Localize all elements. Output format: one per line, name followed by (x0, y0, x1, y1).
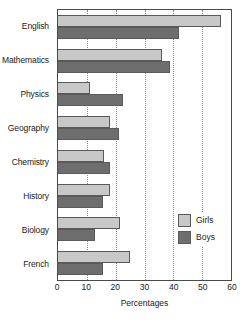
category-label: Mathematics (0, 43, 53, 77)
category-axis: EnglishMathematicsPhysicsGeographyChemis… (0, 9, 53, 281)
x-tick-label: 10 (81, 283, 90, 292)
bar-group (58, 111, 231, 145)
legend-label: Boys (196, 233, 215, 242)
chart-legend: GirlsBoys (176, 212, 217, 246)
legend-item-boys: Boys (178, 231, 215, 244)
bar-boys (58, 162, 110, 174)
bar-group (58, 145, 231, 179)
grouped-bar-chart: EnglishMathematicsPhysicsGeographyChemis… (0, 0, 244, 325)
x-tick-label: 40 (169, 283, 178, 292)
legend-label: Girls (196, 216, 213, 225)
x-axis-title: Percentages (57, 299, 232, 308)
bar-group (58, 44, 231, 78)
legend-swatch-icon (178, 231, 191, 244)
bar-group (58, 78, 231, 112)
bar-girls (58, 49, 162, 61)
category-label: French (0, 247, 53, 281)
category-label: Geography (0, 111, 53, 145)
bar-group (58, 179, 231, 213)
legend-item-girls: Girls (178, 214, 215, 227)
x-axis-tick-labels: 0102030405060 (57, 283, 232, 295)
category-label: Physics (0, 77, 53, 111)
category-label: English (0, 9, 53, 43)
bar-girls (58, 251, 130, 263)
bar-group (58, 10, 231, 44)
x-tick-label: 20 (111, 283, 120, 292)
bar-boys (58, 128, 119, 140)
bar-boys (58, 229, 95, 241)
bar-girls (58, 184, 110, 196)
bar-boys (58, 94, 123, 106)
x-tick-label: 0 (55, 283, 60, 292)
bar-boys (58, 263, 103, 275)
bar-girls (58, 150, 104, 162)
bar-group (58, 246, 231, 280)
category-label: History (0, 179, 53, 213)
bar-boys (58, 196, 103, 208)
bar-girls (58, 217, 120, 229)
x-tick-label: 30 (140, 283, 149, 292)
x-tick-label: 60 (227, 283, 236, 292)
category-label: Chemistry (0, 145, 53, 179)
bar-boys (58, 61, 170, 73)
legend-swatch-icon (178, 214, 191, 227)
bar-girls (58, 82, 90, 94)
bar-boys (58, 27, 179, 39)
category-label: Biology (0, 213, 53, 247)
x-tick-label: 50 (198, 283, 207, 292)
bar-girls (58, 15, 221, 27)
bar-girls (58, 116, 110, 128)
